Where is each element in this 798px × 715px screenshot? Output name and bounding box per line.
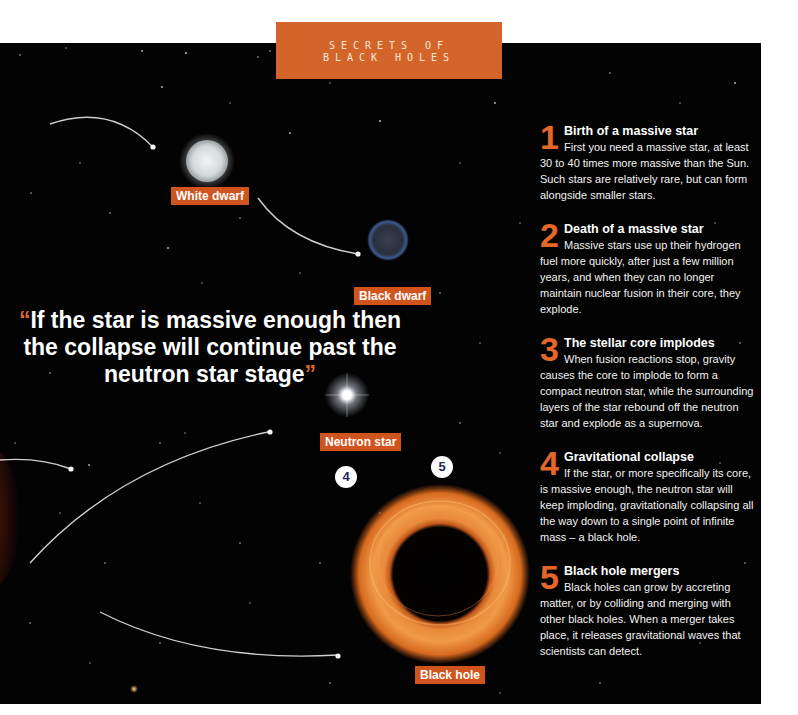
pull-quote: “If the star is massive enough then the … bbox=[10, 307, 410, 388]
step-item: 2 Death of a massive star Massive stars … bbox=[540, 221, 755, 317]
quote-close-mark: ” bbox=[305, 361, 317, 387]
quote-text: If the star is massive enough then the c… bbox=[23, 307, 401, 387]
header-line-2: BLACK HOLES bbox=[276, 52, 502, 64]
white-dwarf-image bbox=[186, 140, 228, 182]
step-item: 1 Birth of a massive star First you need… bbox=[540, 123, 755, 203]
step-body: Black holes can grow by accreting matter… bbox=[540, 579, 755, 659]
step-body: If the star, or more specifically its co… bbox=[540, 465, 755, 545]
black-dwarf-label: Black dwarf bbox=[354, 287, 431, 305]
section-header-banner: SECRETS OF BLACK HOLES bbox=[276, 22, 502, 79]
step-body: When fusion reactions stop, gravity caus… bbox=[540, 351, 755, 431]
step-number: 1 bbox=[540, 121, 559, 153]
step-number: 3 bbox=[540, 333, 559, 365]
step-body: Massive stars use up their hydrogen fuel… bbox=[540, 237, 755, 317]
step-title: The stellar core implodes bbox=[540, 335, 755, 351]
step-item: 4 Gravitational collapse If the star, or… bbox=[540, 449, 755, 545]
white-dwarf-label: White dwarf bbox=[171, 187, 249, 205]
step-body: First you need a massive star, at least … bbox=[540, 139, 755, 203]
black-dwarf-image bbox=[367, 219, 409, 261]
step-4-badge: 4 bbox=[335, 466, 357, 488]
step-title: Gravitational collapse bbox=[540, 449, 755, 465]
step-item: 5 Black hole mergers Black holes can gro… bbox=[540, 563, 755, 659]
steps-list: 1 Birth of a massive star First you need… bbox=[540, 123, 755, 677]
step-number: 5 bbox=[540, 561, 559, 593]
step-number: 2 bbox=[540, 219, 559, 251]
step-title: Birth of a massive star bbox=[540, 123, 755, 139]
step-item: 3 The stellar core implodes When fusion … bbox=[540, 335, 755, 431]
black-hole-label: Black hole bbox=[415, 666, 485, 684]
step-title: Black hole mergers bbox=[540, 563, 755, 579]
quote-open-mark: “ bbox=[19, 307, 31, 333]
step-title: Death of a massive star bbox=[540, 221, 755, 237]
neutron-star-label: Neutron star bbox=[320, 433, 401, 451]
black-hole-image bbox=[350, 484, 530, 664]
step-5-badge: 5 bbox=[431, 456, 453, 478]
header-line-1: SECRETS OF bbox=[276, 40, 502, 52]
step-number: 4 bbox=[540, 447, 559, 479]
